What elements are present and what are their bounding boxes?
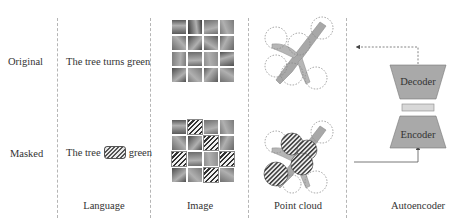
image-patch bbox=[172, 68, 186, 82]
image-patch bbox=[188, 68, 202, 82]
input-arrow bbox=[354, 148, 418, 162]
image-patch bbox=[172, 20, 186, 34]
autoencoder-diagram: Decoder Encoder bbox=[340, 0, 467, 222]
image-patch bbox=[220, 20, 234, 34]
row-label-original: Original bbox=[8, 56, 43, 67]
masked-image-patch bbox=[172, 152, 186, 166]
image-patch bbox=[220, 36, 234, 50]
masked-image-patch bbox=[204, 168, 218, 182]
output-arrow bbox=[358, 47, 418, 64]
image-patch bbox=[172, 52, 186, 66]
image-patch bbox=[188, 136, 202, 150]
image-patch bbox=[204, 36, 218, 50]
image-patch bbox=[204, 20, 218, 34]
image-patch bbox=[172, 136, 186, 150]
image-patch bbox=[188, 52, 202, 66]
image-patch bbox=[188, 20, 202, 34]
image-patch bbox=[220, 168, 234, 182]
image-patch bbox=[188, 36, 202, 50]
image-patch bbox=[220, 136, 234, 150]
column-label-image: Image bbox=[187, 200, 213, 211]
masked-image-patch bbox=[204, 136, 218, 150]
image-patch bbox=[220, 68, 234, 82]
image-patch bbox=[204, 120, 218, 134]
row-label-masked: Masked bbox=[10, 148, 43, 159]
original-image-grid bbox=[172, 20, 234, 82]
column-label-autoencoder: Autoencoder bbox=[391, 200, 445, 211]
image-patch bbox=[188, 152, 202, 166]
masked-image-patch bbox=[220, 152, 234, 166]
divider-row-labels bbox=[57, 18, 58, 218]
masked-image-patch bbox=[188, 120, 202, 134]
latent-bar bbox=[402, 104, 434, 111]
image-patch bbox=[220, 52, 234, 66]
image-patch bbox=[188, 168, 202, 182]
image-patch bbox=[204, 52, 218, 66]
masked-word-token bbox=[104, 146, 126, 159]
divider-language bbox=[150, 18, 151, 218]
image-patch bbox=[172, 36, 186, 50]
masked-point-cloud bbox=[262, 118, 334, 198]
image-patch bbox=[172, 168, 186, 182]
divider-image bbox=[248, 18, 249, 218]
original-sentence-text: The tree turns green bbox=[66, 56, 150, 67]
image-patch bbox=[172, 120, 186, 134]
masked-sentence: The tree green bbox=[66, 146, 152, 159]
original-point-cloud bbox=[262, 14, 334, 94]
masked-sentence-suffix: green bbox=[129, 147, 152, 158]
original-sentence: The tree turns green bbox=[66, 56, 150, 67]
decoder-label: Decoder bbox=[400, 76, 436, 87]
airplane-shape bbox=[272, 22, 326, 84]
image-patch bbox=[204, 152, 218, 166]
image-patch bbox=[204, 68, 218, 82]
column-label-language: Language bbox=[83, 200, 124, 211]
image-patch bbox=[220, 120, 234, 134]
column-label-point-cloud: Point cloud bbox=[274, 200, 322, 211]
encoder-label: Encoder bbox=[401, 129, 436, 140]
masked-sentence-prefix: The tree bbox=[66, 147, 101, 158]
masked-image-grid bbox=[172, 120, 234, 182]
